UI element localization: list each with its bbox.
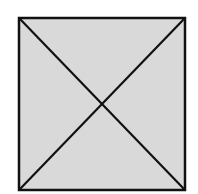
square-with-diagonals-diagram: [0, 0, 198, 194]
